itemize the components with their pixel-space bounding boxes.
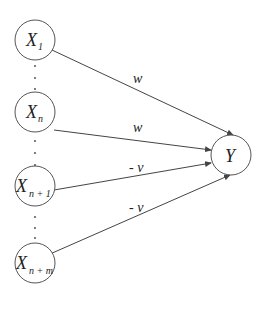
ellipsis-1 (34, 65, 36, 90)
weight-label-4: - v (129, 200, 144, 215)
weight-label-1: w (133, 71, 143, 86)
ellipsis-2 (34, 140, 36, 166)
svg-text:n: n (38, 113, 43, 124)
node-y: Y (211, 135, 251, 175)
svg-text:1: 1 (38, 41, 43, 52)
weight-label-2: w (133, 120, 143, 135)
weight-label-3: - v (129, 160, 144, 175)
node-x1: X 1 (15, 20, 55, 60)
node-xnm: X n + m (15, 243, 55, 283)
svg-text:X: X (25, 102, 38, 122)
edge-x1-y (52, 50, 233, 135)
svg-text:n + m: n + m (29, 265, 53, 276)
node-xn1: X n + 1 (15, 166, 55, 206)
svg-text:X: X (15, 253, 28, 273)
network-diagram: w w - v - v X 1 X n X n + 1 X n + m (0, 0, 265, 310)
svg-text:X: X (25, 30, 38, 50)
node-xn: X n (15, 92, 55, 132)
svg-text:X: X (15, 176, 28, 196)
svg-text:n + 1: n + 1 (29, 188, 51, 199)
ellipsis-3 (34, 216, 36, 239)
